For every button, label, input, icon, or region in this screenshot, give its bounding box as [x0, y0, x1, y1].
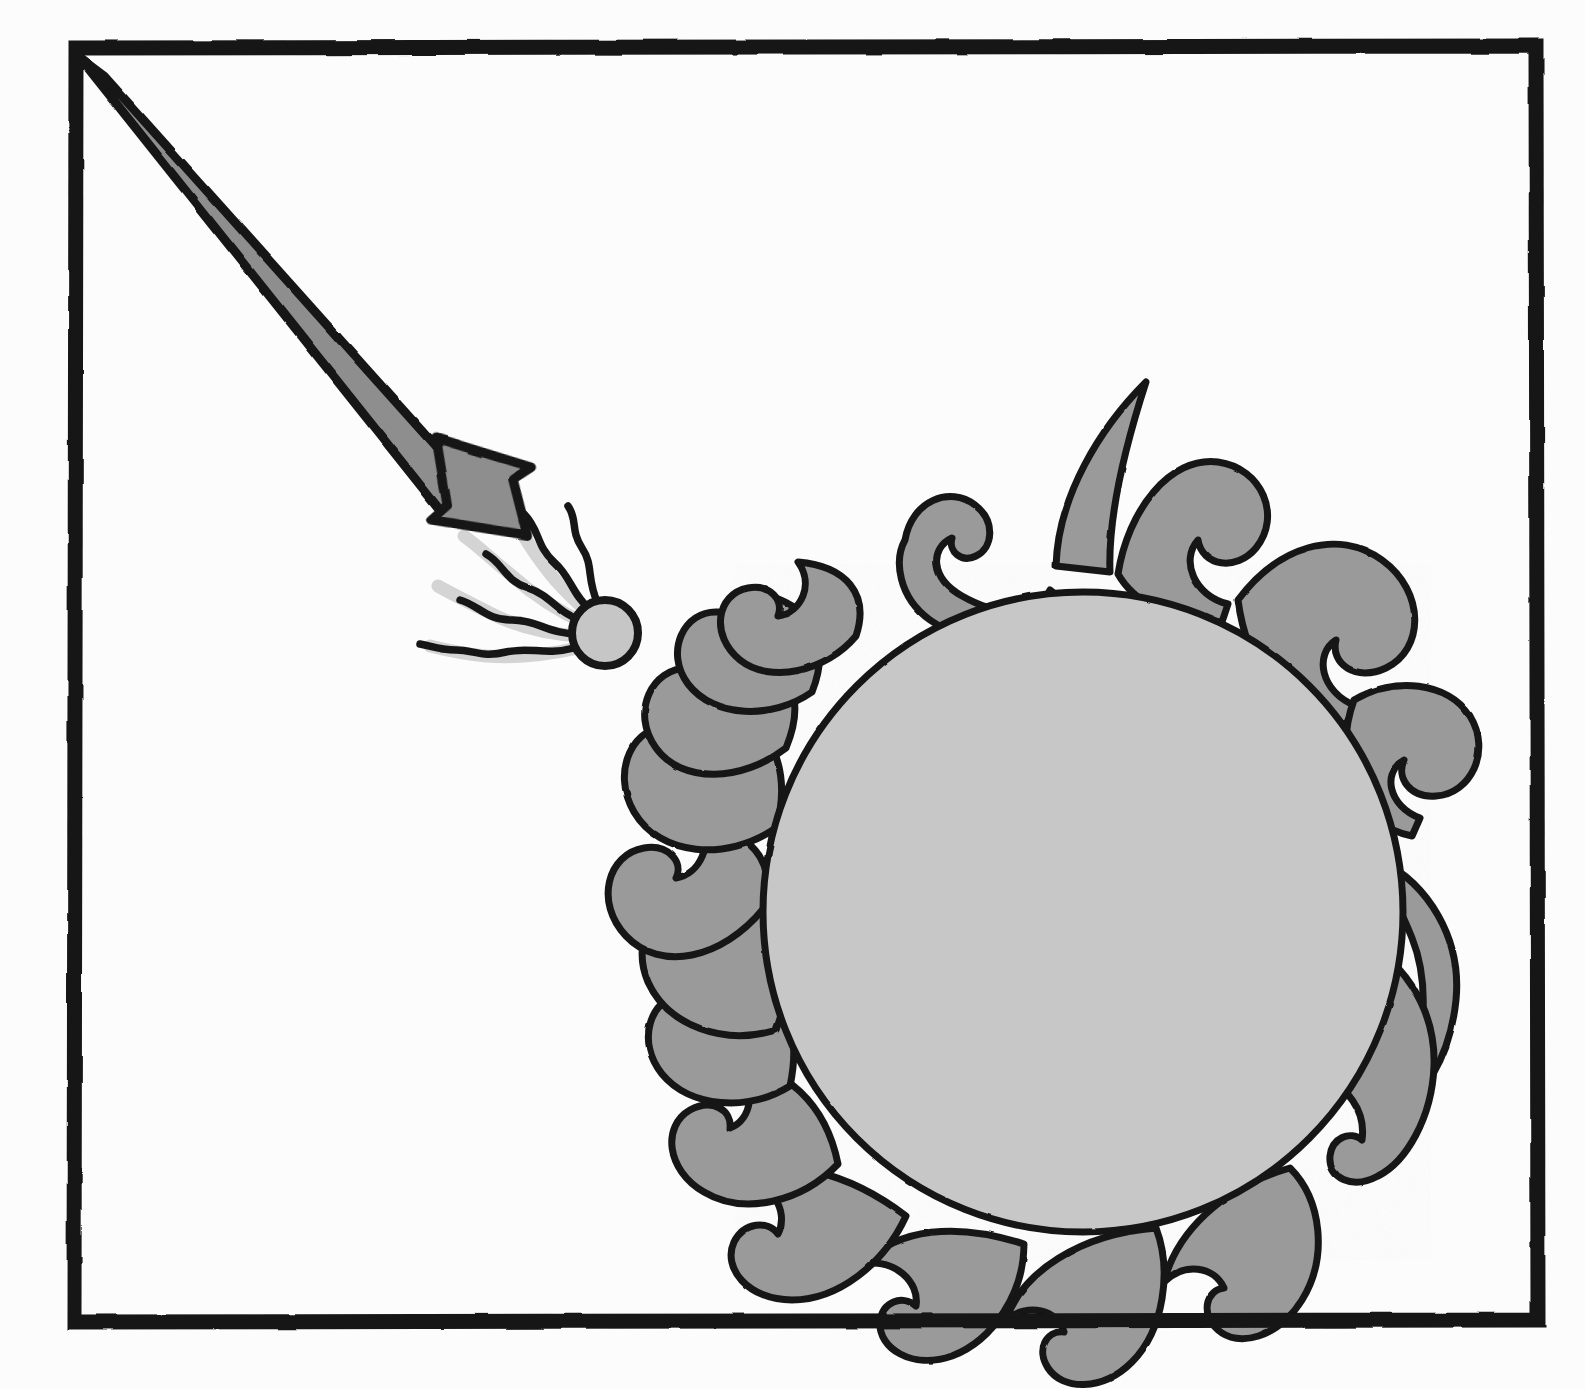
- illustration-canvas: [0, 0, 1585, 1389]
- illustration-panel: Comet approaching the Sun: [0, 0, 1585, 1389]
- sun-disk-texture: [767, 596, 1399, 1228]
- comet-nucleus: [572, 600, 638, 666]
